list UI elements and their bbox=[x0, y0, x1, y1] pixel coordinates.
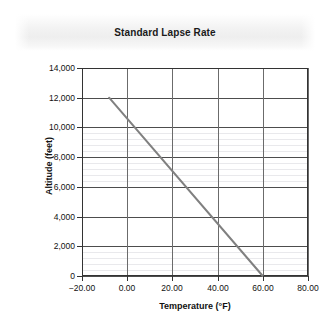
x-tick-mark bbox=[82, 276, 83, 281]
x-tick-mark bbox=[308, 276, 309, 281]
y-tick-mark bbox=[77, 98, 82, 99]
x-tick-mark bbox=[218, 276, 219, 281]
y-tick-mark bbox=[77, 127, 82, 128]
x-tick-label: 40.00 bbox=[207, 283, 228, 293]
y-tick-label: 12,000 bbox=[49, 93, 75, 103]
data-series-line bbox=[82, 68, 308, 276]
chart-title: Standard Lapse Rate bbox=[114, 27, 215, 38]
y-tick-label: 8,000 bbox=[54, 152, 75, 162]
x-tick-label: 0.00 bbox=[119, 283, 136, 293]
y-axis-title: Altitude (feet) bbox=[44, 137, 54, 195]
gridline-vertical bbox=[308, 68, 309, 276]
x-tick-label: −20.00 bbox=[69, 283, 95, 293]
y-tick-mark bbox=[77, 217, 82, 218]
x-axis-title: Temperature (°F) bbox=[82, 301, 308, 311]
y-tick-label: 0 bbox=[70, 271, 75, 281]
x-tick-label: 60.00 bbox=[252, 283, 273, 293]
y-tick-mark bbox=[77, 157, 82, 158]
x-tick-mark bbox=[263, 276, 264, 281]
y-tick-mark bbox=[77, 246, 82, 247]
title-banner: Standard Lapse Rate bbox=[15, 14, 315, 51]
y-tick-label: 10,000 bbox=[49, 122, 75, 132]
x-tick-mark bbox=[127, 276, 128, 281]
x-tick-label: 80.00 bbox=[297, 283, 318, 293]
y-tick-mark bbox=[77, 187, 82, 188]
y-tick-label: 6,000 bbox=[54, 182, 75, 192]
plot-area: 02,0004,0006,0008,00010,00012,00014,000 … bbox=[82, 68, 308, 276]
y-tick-label: 2,000 bbox=[54, 241, 75, 251]
chart-figure: Standard Lapse Rate Altitude (feet) 02,0… bbox=[0, 0, 332, 332]
y-tick-label: 14,000 bbox=[49, 63, 75, 73]
gridline-horizontal bbox=[82, 276, 308, 277]
y-tick-label: 4,000 bbox=[54, 212, 75, 222]
x-tick-mark bbox=[172, 276, 173, 281]
x-tick-label: 20.00 bbox=[161, 283, 182, 293]
y-tick-mark bbox=[77, 68, 82, 69]
